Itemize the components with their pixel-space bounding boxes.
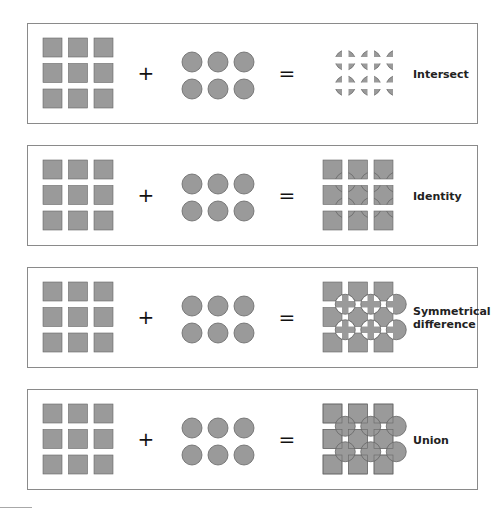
circle-shape — [208, 201, 228, 221]
operation-label: Intersect — [413, 68, 477, 81]
square-shape — [69, 455, 88, 474]
result-union — [323, 404, 406, 474]
result-circle — [361, 416, 381, 436]
result-square — [323, 211, 342, 230]
result-circle — [386, 416, 406, 436]
result-intersect — [335, 50, 406, 96]
result-circle — [386, 442, 406, 462]
square-shape — [43, 160, 62, 179]
square-shape — [94, 282, 113, 301]
plus-operator: + — [138, 183, 155, 207]
footnote-divider — [0, 507, 32, 508]
square-shape — [94, 455, 113, 474]
circle-shape — [208, 323, 228, 343]
square-shape — [69, 160, 88, 179]
circle-shape — [234, 323, 254, 343]
result-square — [374, 211, 393, 230]
square-shape — [43, 89, 62, 108]
square-shape — [69, 430, 88, 449]
circle-shape — [182, 418, 202, 438]
result-circle — [335, 416, 355, 436]
plus-operator: + — [138, 427, 155, 451]
square-shape — [94, 308, 113, 327]
circles-operand — [182, 418, 254, 465]
operation-label: Union — [413, 434, 477, 447]
circles-operand — [182, 296, 254, 343]
square-shape — [94, 211, 113, 230]
result-circle — [386, 198, 406, 218]
circle-shape — [208, 174, 228, 194]
panel-diagram: += — [28, 146, 479, 247]
square-shape — [69, 186, 88, 205]
square-shape — [43, 308, 62, 327]
result-symmetrical-difference — [323, 282, 406, 352]
square-shape — [69, 64, 88, 83]
circle-shape — [182, 445, 202, 465]
circle-shape — [234, 201, 254, 221]
circles-operand — [182, 52, 254, 99]
square-shape — [43, 455, 62, 474]
result-circle — [386, 50, 406, 70]
result-square — [349, 186, 368, 205]
panel-symmetrical-difference: +=Symmetrical difference — [27, 267, 478, 368]
circle-shape — [208, 418, 228, 438]
result-circle — [386, 76, 406, 96]
circle-shape — [234, 174, 254, 194]
square-shape — [94, 333, 113, 352]
square-shape — [69, 404, 88, 423]
circle-shape — [208, 52, 228, 72]
square-shape — [43, 186, 62, 205]
circle-shape — [234, 445, 254, 465]
square-shape — [43, 430, 62, 449]
circle-shape — [182, 201, 202, 221]
square-shape — [43, 211, 62, 230]
panel-diagram: += — [28, 24, 479, 125]
result-circle — [335, 172, 355, 192]
result-square — [374, 160, 393, 179]
square-shape — [94, 38, 113, 57]
result-square — [349, 211, 368, 230]
panel-union: +=Union — [27, 389, 478, 490]
circle-shape — [234, 296, 254, 316]
result-circle — [335, 76, 355, 96]
result-circle — [335, 442, 355, 462]
result-square — [323, 160, 342, 179]
square-shape — [69, 89, 88, 108]
equals-operator: = — [279, 305, 296, 329]
result-circle — [361, 172, 381, 192]
result-square — [323, 186, 342, 205]
plus-operator: + — [138, 61, 155, 85]
square-shape — [94, 160, 113, 179]
operation-label: Symmetrical difference — [413, 305, 477, 331]
squares-operand — [43, 282, 113, 352]
panel-intersect: +=Intersect — [27, 23, 478, 124]
square-shape — [94, 430, 113, 449]
squares-operand — [43, 160, 113, 230]
equals-operator: = — [279, 61, 296, 85]
circle-shape — [182, 79, 202, 99]
square-shape — [69, 211, 88, 230]
result-circle — [361, 442, 381, 462]
squares-operand — [43, 404, 113, 474]
result-circle — [361, 76, 381, 96]
result-circle — [361, 50, 381, 70]
panel-identity: +=Identity — [27, 145, 478, 246]
result-identity — [323, 160, 406, 230]
square-shape — [69, 333, 88, 352]
square-shape — [43, 38, 62, 57]
square-shape — [43, 404, 62, 423]
panel-diagram: += — [28, 268, 479, 369]
circle-shape — [182, 323, 202, 343]
squares-operand — [43, 38, 113, 108]
circle-shape — [234, 52, 254, 72]
square-shape — [94, 89, 113, 108]
result-circle — [361, 198, 381, 218]
equals-operator: = — [279, 183, 296, 207]
circles-operand — [182, 174, 254, 221]
panel-diagram: += — [28, 390, 479, 491]
result-square — [349, 160, 368, 179]
square-shape — [43, 333, 62, 352]
operation-label: Identity — [413, 190, 477, 203]
square-shape — [43, 282, 62, 301]
square-shape — [69, 308, 88, 327]
